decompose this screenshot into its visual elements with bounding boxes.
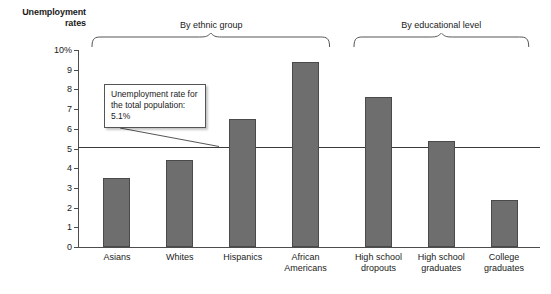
tick-mark [74, 188, 78, 189]
tick-mark [74, 50, 78, 51]
bar-african-americans [292, 62, 319, 247]
y-axis-line [78, 50, 79, 248]
tick-mark [74, 149, 78, 150]
y-tick-label: 0 [67, 242, 72, 252]
y-tick-label: 7 [67, 104, 72, 114]
bar-college-graduates [491, 200, 518, 247]
bar-high-school-graduates [428, 141, 455, 247]
tick-mark [74, 227, 78, 228]
tick-mark [74, 208, 78, 209]
tick-mark [74, 109, 78, 110]
x-label-college-graduates: Collegegraduates [459, 252, 549, 273]
y-axis-title-line2: rates [65, 18, 86, 28]
tick-mark [74, 129, 78, 130]
tick-mark [74, 89, 78, 90]
tick-mark [74, 247, 78, 248]
y-axis-title-line1: Unemployment [22, 7, 86, 17]
unemployment-rates-bar-chart: Unemployment rates By ethnic group By ed… [0, 0, 551, 294]
y-tick-label: 5 [67, 144, 72, 154]
y-tick-label: 2 [67, 203, 72, 213]
plot-area: 012345678910% [78, 50, 540, 248]
y-tick-label: 9 [67, 65, 72, 75]
group-bracket-ethnic [91, 33, 331, 47]
y-tick-label: 3 [67, 183, 72, 193]
y-tick-label: 8 [67, 84, 72, 94]
bar-whites [166, 160, 193, 247]
bar-high-school-dropouts [365, 97, 392, 247]
bar-hispanics [229, 119, 256, 247]
y-tick-label: 1 [67, 222, 72, 232]
y-tick-label: 4 [67, 163, 72, 173]
group-bracket-education [353, 33, 530, 47]
x-label-line2: graduates [459, 263, 549, 274]
tick-mark [74, 168, 78, 169]
x-label-line1: College [459, 252, 549, 263]
group-label-education: By educational level [353, 20, 530, 30]
x-axis-line [78, 247, 540, 248]
y-tick-label: 6 [67, 124, 72, 134]
bar-asians [103, 178, 130, 247]
group-label-ethnic: By ethnic group [91, 20, 331, 30]
tick-mark [74, 70, 78, 71]
reference-line-callout: Unemployment rate for the total populati… [104, 84, 206, 128]
y-axis-title: Unemployment rates [0, 7, 86, 29]
y-tick-label: 10% [54, 45, 72, 55]
callout-line1: Unemployment [111, 89, 168, 99]
